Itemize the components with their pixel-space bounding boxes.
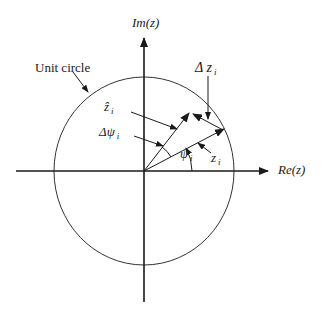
z-hat-text: ẑ	[104, 99, 109, 114]
diagram-svg	[0, 0, 324, 316]
z-hat-label: ẑi	[104, 99, 114, 115]
diagram-canvas: Im(z) Re(z) Unit circle Δ zi ẑi Δψi ψi z…	[0, 0, 324, 316]
z-subscript: i	[218, 157, 221, 167]
unit-circle-label: Unit circle	[35, 60, 90, 76]
psi-text: ψ	[180, 146, 188, 161]
delta-psi-pointer	[134, 136, 163, 146]
delta-psi-arc	[162, 147, 171, 157]
delta-z-text: Δ z	[195, 60, 212, 75]
z-hat-pointer	[131, 112, 177, 129]
psi-subscript: i	[190, 153, 193, 163]
delta-z-label: Δ zi	[195, 60, 216, 76]
psi-label: ψi	[180, 146, 193, 162]
delta-psi-subscript: i	[117, 131, 120, 141]
delta-z-subscript: i	[214, 67, 217, 77]
imag-axis-label: Im(z)	[132, 15, 159, 31]
delta-psi-text: Δψ	[99, 124, 115, 139]
delta-psi-label: Δψi	[99, 124, 119, 140]
real-axis-label: Re(z)	[278, 162, 305, 178]
z-label: zi	[211, 150, 221, 166]
z-hat-subscript: i	[111, 106, 114, 116]
z-text: z	[211, 150, 216, 165]
z-pointer	[198, 143, 211, 153]
